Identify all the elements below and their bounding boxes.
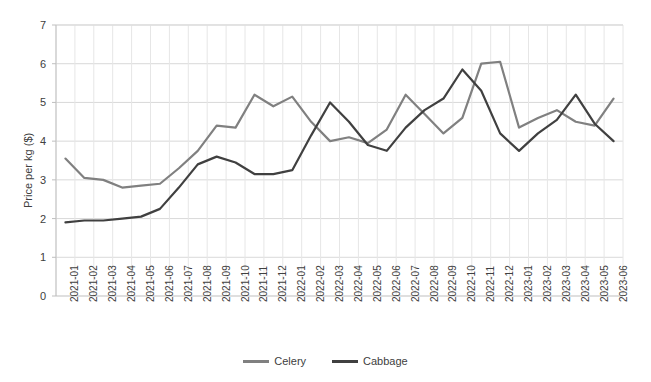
y-tick-label: 0 [32, 291, 46, 302]
x-tick-label: 2021-11 [258, 266, 269, 302]
x-tick-label: 2023-04 [580, 265, 591, 302]
x-tick-label: 2022-11 [485, 266, 496, 302]
gridlines [56, 25, 623, 296]
x-tick-label: 2023-03 [561, 265, 572, 302]
y-tick-label: 6 [32, 59, 46, 70]
x-tick-label: 2022-06 [391, 265, 402, 302]
y-tick-label: 5 [32, 97, 46, 108]
x-tick-label: 2021-03 [107, 265, 118, 302]
x-tick-label: 2021-07 [183, 265, 194, 302]
y-tick-label: 4 [32, 136, 46, 147]
x-tick-label: 2021-01 [69, 265, 80, 302]
x-tick-label: 2023-05 [599, 265, 610, 302]
y-tick-label: 7 [32, 20, 46, 31]
x-tick-label: 2022-10 [466, 265, 477, 302]
x-tick-label: 2021-04 [126, 265, 137, 302]
x-tick-label: 2022-07 [410, 265, 421, 302]
x-tick-label: 2023-02 [542, 265, 553, 302]
x-tick-label: 2021-06 [164, 265, 175, 302]
x-tick-label: 2022-03 [334, 265, 345, 302]
x-tick-label: 2021-12 [277, 265, 288, 302]
legend-label: Celery [274, 356, 306, 367]
y-tick-label: 1 [32, 252, 46, 263]
axis-lines [52, 25, 623, 296]
x-tick-label: 2021-05 [145, 265, 156, 302]
x-tick-label: 2022-08 [429, 265, 440, 302]
y-axis-title: Price per kg ($) [22, 133, 34, 208]
x-tick-label: 2023-06 [618, 265, 629, 302]
legend-item-celery[interactable]: Celery [243, 356, 306, 367]
legend-swatch-cabbage [332, 360, 358, 363]
y-tick-label: 3 [32, 175, 46, 186]
x-tick-label: 2022-05 [372, 265, 383, 302]
x-tick-label: 2023-01 [523, 265, 534, 302]
x-tick-label: 2022-09 [447, 265, 458, 302]
x-tick-label: 2022-12 [504, 265, 515, 302]
x-tick-label: 2022-04 [353, 265, 364, 302]
legend-item-cabbage[interactable]: Cabbage [332, 356, 408, 367]
legend-label: Cabbage [363, 356, 408, 367]
x-tick-label: 2022-02 [315, 265, 326, 302]
chart-legend: CeleryCabbage [0, 356, 651, 367]
x-tick-label: 2022-01 [296, 265, 307, 302]
x-tick-label: 2021-09 [221, 265, 232, 302]
legend-swatch-celery [243, 360, 269, 363]
x-tick-label: 2021-08 [202, 265, 213, 302]
chart-plot-area [0, 0, 651, 382]
x-tick-label: 2021-10 [240, 265, 251, 302]
y-tick-label: 2 [32, 214, 46, 225]
x-tick-label: 2021-02 [88, 265, 99, 302]
price-line-chart: 01234567 Price per kg ($) 2021-012021-02… [0, 0, 651, 382]
